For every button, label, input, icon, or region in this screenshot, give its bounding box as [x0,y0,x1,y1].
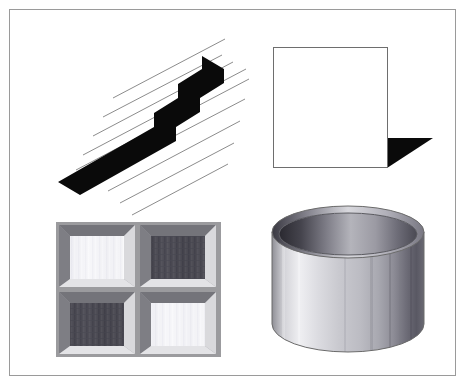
tile-row1-col0 [59,292,135,354]
zigzag-band [58,56,224,195]
tile-row0-col0 [59,225,135,287]
cylinder-figure [258,206,448,371]
tile-bevel-bottom [59,346,135,354]
tile-bevel-top [59,292,135,303]
figure-page [0,0,470,388]
panel-square-with-cast-shadow [265,40,455,195]
tile-bevel-top [140,292,216,303]
zigzag-figure [50,28,250,198]
panel-beveled-checker-tiles [56,222,221,357]
tile-bevel-top [140,225,216,236]
figure-frame [9,9,456,376]
white-square [274,48,388,168]
tile-row1-col1 [140,292,216,354]
tile-row0-col1 [140,225,216,287]
panel-hatched-zigzag-bar [50,28,250,198]
tile-face-texture [151,236,205,279]
cast-shadow-triangle [387,138,433,168]
tile-bevel-bottom [140,279,216,287]
tile-bevel-bottom [59,279,135,287]
panel-shaded-open-cylinder [258,206,448,371]
tile-grid-figure [56,222,221,357]
tile-face-texture [70,236,124,279]
square-shadow-figure [265,40,455,195]
tile-face-texture [70,303,124,346]
tile-bevel-top [59,225,135,236]
tile-bevel-bottom [140,346,216,354]
tile-face-texture [151,303,205,346]
